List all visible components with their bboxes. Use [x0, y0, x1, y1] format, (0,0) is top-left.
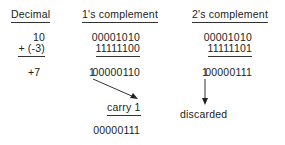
carry-arrow-icon — [93, 79, 138, 99]
arrows-layer — [0, 0, 285, 145]
discard-arrow-icon — [202, 79, 208, 105]
